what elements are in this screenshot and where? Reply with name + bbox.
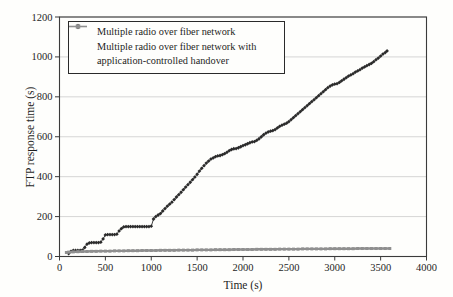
square-marker bbox=[95, 250, 98, 253]
square-marker bbox=[72, 250, 75, 253]
legend: Multiple radio over fiber network Multip… bbox=[68, 21, 285, 74]
x-tick-label: 500 bbox=[98, 262, 114, 273]
x-tick-label: 1500 bbox=[187, 262, 208, 273]
y-tick-label: 1200 bbox=[32, 12, 53, 23]
square-marker bbox=[283, 248, 286, 251]
square-marker bbox=[219, 248, 222, 251]
square-marker bbox=[342, 247, 345, 250]
square-marker bbox=[191, 249, 194, 252]
square-marker bbox=[292, 248, 295, 251]
square-marker bbox=[260, 248, 263, 251]
square-marker bbox=[347, 247, 350, 250]
square-marker bbox=[306, 247, 309, 250]
square-marker bbox=[145, 249, 148, 252]
square-marker bbox=[324, 247, 327, 250]
ftp-response-time-chart: 0500100015002000250030003500400002004006… bbox=[0, 0, 453, 297]
square-marker bbox=[209, 248, 212, 251]
legend-label: application-controlled handover bbox=[97, 54, 229, 69]
legend-item-handover-line2: application-controlled handover bbox=[97, 54, 280, 69]
square-marker bbox=[214, 248, 217, 251]
square-marker bbox=[352, 247, 355, 250]
y-tick-label: 400 bbox=[37, 171, 53, 182]
square-marker bbox=[131, 249, 134, 252]
square-marker bbox=[108, 250, 111, 253]
square-marker bbox=[205, 248, 208, 251]
square-marker bbox=[154, 249, 157, 252]
square-marker bbox=[333, 247, 336, 250]
square-marker bbox=[186, 249, 189, 252]
square-marker bbox=[310, 247, 313, 250]
y-axis-title: FTP response time (s) bbox=[24, 87, 36, 188]
square-marker bbox=[81, 250, 84, 253]
square-marker bbox=[141, 249, 144, 252]
square-marker bbox=[301, 247, 304, 250]
square-marker bbox=[223, 248, 226, 251]
square-marker bbox=[365, 247, 368, 250]
square-marker bbox=[136, 249, 139, 252]
y-tick-label: 1000 bbox=[32, 51, 53, 62]
square-marker bbox=[104, 250, 107, 253]
x-tick-label: 3500 bbox=[370, 262, 391, 273]
x-tick-label: 2000 bbox=[233, 262, 254, 273]
x-tick-label: 3000 bbox=[324, 262, 345, 273]
x-tick-label: 4000 bbox=[416, 262, 437, 273]
square-marker bbox=[246, 248, 249, 251]
x-tick-label: 0 bbox=[57, 262, 62, 273]
square-marker bbox=[384, 247, 387, 250]
square-marker bbox=[127, 249, 130, 252]
square-marker bbox=[361, 247, 364, 250]
square-marker bbox=[287, 248, 290, 251]
square-marker bbox=[196, 248, 199, 251]
square-marker bbox=[237, 248, 240, 251]
square-marker bbox=[150, 249, 153, 252]
figure-page: 0500100015002000250030003500400002004006… bbox=[0, 0, 453, 297]
square-marker bbox=[315, 247, 318, 250]
square-marker bbox=[164, 249, 167, 252]
square-marker bbox=[118, 249, 121, 252]
square-marker bbox=[255, 248, 258, 251]
square-marker bbox=[297, 248, 300, 251]
square-marker bbox=[269, 248, 272, 251]
square-marker bbox=[113, 249, 116, 252]
square-marker bbox=[379, 247, 382, 250]
square-marker bbox=[242, 248, 245, 251]
y-tick-label: 600 bbox=[37, 131, 53, 142]
square-marker bbox=[168, 249, 171, 252]
y-tick-label: 0 bbox=[47, 251, 52, 262]
square-marker bbox=[67, 251, 70, 254]
square-marker bbox=[329, 247, 332, 250]
square-marker bbox=[274, 248, 277, 251]
square-marker bbox=[388, 247, 391, 250]
y-tick-label: 200 bbox=[37, 211, 53, 222]
legend-item-fiber-network: Multiple radio over fiber network bbox=[74, 25, 280, 40]
x-axis-title: Time (s) bbox=[224, 279, 263, 291]
square-marker bbox=[264, 248, 267, 251]
legend-item-handover: Multiple radio over fiber network with bbox=[74, 40, 280, 55]
square-marker bbox=[232, 248, 235, 251]
square-marker bbox=[356, 247, 359, 250]
square-marker-icon bbox=[74, 42, 92, 51]
legend-label: Multiple radio over fiber network with bbox=[97, 40, 256, 55]
square-marker bbox=[251, 248, 254, 251]
square-marker bbox=[338, 247, 341, 250]
square-marker bbox=[228, 248, 231, 251]
square-marker bbox=[122, 249, 125, 252]
square-marker bbox=[159, 249, 162, 252]
y-tick-label: 800 bbox=[37, 91, 53, 102]
square-marker bbox=[177, 249, 180, 252]
square-marker bbox=[182, 249, 185, 252]
square-marker bbox=[319, 247, 322, 250]
square-marker bbox=[370, 247, 373, 250]
x-tick-label: 1000 bbox=[141, 262, 162, 273]
square-marker bbox=[86, 250, 89, 253]
square-marker bbox=[375, 247, 378, 250]
square-marker bbox=[173, 249, 176, 252]
square-marker bbox=[76, 250, 79, 253]
square-marker bbox=[99, 250, 102, 253]
legend-label: Multiple radio over fiber network bbox=[97, 25, 235, 40]
square-marker bbox=[200, 248, 203, 251]
x-tick-label: 2500 bbox=[278, 262, 299, 273]
square-marker bbox=[278, 248, 281, 251]
square-marker bbox=[90, 250, 93, 253]
